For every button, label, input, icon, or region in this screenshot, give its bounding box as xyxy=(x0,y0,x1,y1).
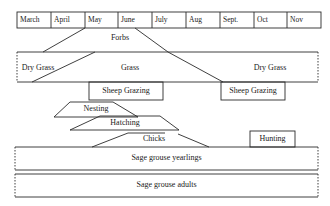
dry-grass-late-label: Dry Grass xyxy=(245,63,295,73)
diagram-canvas xyxy=(0,0,330,206)
month-oct: Oct xyxy=(254,12,287,28)
forbs-label: Forbs xyxy=(100,33,140,43)
yearlings-label: Sage grouse yearlings xyxy=(15,153,318,163)
adults-label: Sage grouse adults xyxy=(15,180,318,190)
nesting-label: Nesting xyxy=(76,104,116,114)
grass-label: Grass xyxy=(110,63,150,73)
chicks-label: Chicks xyxy=(134,134,174,144)
month-march: March xyxy=(17,12,51,28)
month-april: April xyxy=(51,12,85,28)
month-aug: Aug xyxy=(186,12,220,28)
month-july: July xyxy=(152,12,186,28)
month-nov: Nov xyxy=(287,12,321,28)
month-sept: Sept. xyxy=(220,12,254,28)
month-may: May xyxy=(85,12,118,28)
sheep-grazing-spring-label: Sheep Grazing xyxy=(89,86,163,96)
dry-grass-early-label: Dry Grass xyxy=(17,63,59,73)
hatching-label: Hatching xyxy=(100,118,150,128)
month-june: June xyxy=(118,12,152,28)
sheep-grazing-fall-label: Sheep Grazing xyxy=(221,86,285,96)
hunting-label: Hunting xyxy=(250,134,295,144)
